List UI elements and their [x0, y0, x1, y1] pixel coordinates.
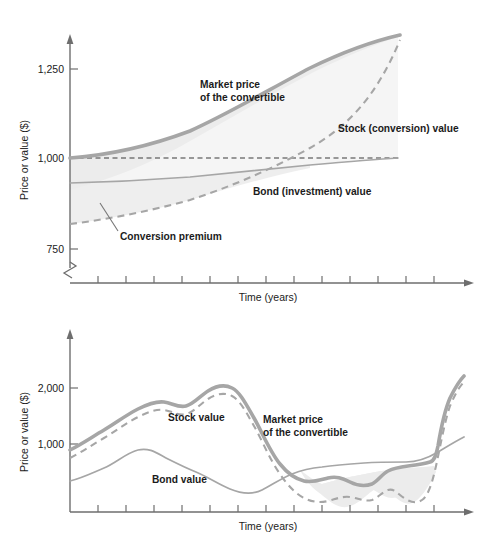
- top-y-axis-arrow: [67, 34, 74, 44]
- top-market-price-label-line1: Market price: [200, 79, 260, 90]
- bottom-bond-value-label: Bond value: [152, 474, 207, 485]
- bottom-x-axis-title: Time (years): [239, 520, 298, 532]
- bottom-y-axis-title: Price or value ($): [18, 392, 30, 472]
- bottom-ytick-1000: 1,000: [38, 438, 64, 450]
- bottom-ytick-2000: 2,000: [38, 382, 64, 394]
- bottom-market-price-label-line2: of the convertible: [263, 427, 348, 438]
- top-stock-value-label: Stock (conversion) value: [338, 123, 459, 134]
- top-bond-value-label: Bond (investment) value: [253, 186, 372, 197]
- bottom-y-axis-arrow: [67, 329, 74, 339]
- top-x-axis-title: Time (years): [239, 291, 298, 303]
- top-conversion-premium-label: Conversion premium: [120, 231, 222, 242]
- bottom-market-price-label-line1: Market price: [263, 414, 323, 425]
- top-ytick-1000: 1,000: [38, 152, 64, 164]
- top-ytick-1250: 1,250: [38, 63, 64, 75]
- bottom-x-ticks: [98, 505, 434, 512]
- bottom-stock-value-label: Stock value: [168, 412, 225, 423]
- top-x-axis-arrow: [464, 280, 474, 287]
- top-market-price-label-line2: of the convertible: [200, 92, 285, 103]
- top-x-ticks: [98, 276, 434, 283]
- top-y-axis-title: Price or value ($): [18, 120, 30, 200]
- convertible-bond-figure: 1,250 1,000 750 Price or value ($) Time …: [0, 0, 485, 541]
- bottom-x-axis-arrow: [464, 509, 474, 516]
- top-chart: 1,250 1,000 750 Price or value ($) Time …: [18, 34, 474, 303]
- bottom-y-ticks: [70, 388, 78, 444]
- top-ytick-750: 750: [46, 243, 64, 255]
- bottom-chart: 2,000 1,000 Price or value ($) Time (yea…: [18, 329, 474, 532]
